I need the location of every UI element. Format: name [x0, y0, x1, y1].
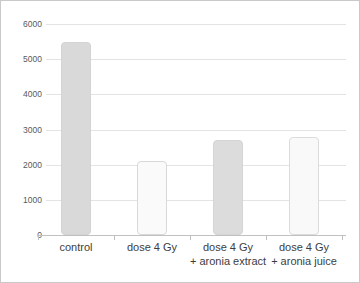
category-label: dose 4 Gy: [110, 240, 194, 254]
bar-dose-4-Gy: [137, 161, 167, 235]
y-axis-tick-label: 5000: [1, 54, 42, 64]
y-axis-tick-label: 4000: [1, 89, 42, 99]
y-axis-tick-label: 1000: [1, 195, 42, 205]
gridline-6000: [46, 24, 346, 25]
category-label: dose 4 Gy+ aronia extract: [186, 240, 270, 268]
y-axis-tick-label: 2000: [1, 160, 42, 170]
gridline-3000: [46, 130, 346, 131]
category-label-line: dose 4 Gy: [186, 240, 270, 254]
y-axis-tick-label: 0: [1, 230, 42, 240]
category-label-line: + aronia juice: [262, 254, 346, 268]
bar-chart: 0100020003000400050006000controldose 4 G…: [0, 0, 360, 283]
x-axis-line: [38, 235, 346, 236]
y-axis-tick-label: 3000: [1, 125, 42, 135]
y-axis-tick-label: 6000: [1, 19, 42, 29]
plot-area: 0100020003000400050006000controldose 4 G…: [1, 1, 359, 282]
category-label-line: dose 4 Gy: [262, 240, 346, 254]
category-label-line: control: [34, 240, 118, 254]
category-label-line: + aronia extract: [186, 254, 270, 268]
gridline-4000: [46, 94, 346, 95]
bar-dose-4-Gy: [289, 137, 319, 235]
category-label-line: dose 4 Gy: [110, 240, 194, 254]
category-label: dose 4 Gy+ aronia juice: [262, 240, 346, 268]
gridline-5000: [46, 59, 346, 60]
category-label: control: [34, 240, 118, 254]
bar-control: [61, 42, 91, 235]
bar-dose-4-Gy: [213, 140, 243, 235]
